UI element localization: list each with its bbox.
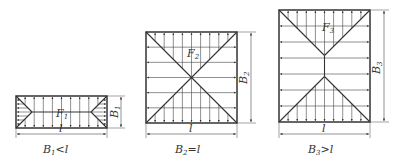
ridge-line — [279, 10, 325, 56]
ridge-line — [146, 32, 192, 78]
diagram-case-2: F2 B2 l B2=l — [146, 32, 256, 157]
width-dimension: l — [146, 122, 237, 138]
height-label: B3 — [370, 61, 384, 75]
caption: B2=l — [174, 143, 201, 157]
width-dimension: l — [16, 122, 107, 138]
height-label: B2 — [237, 71, 251, 85]
ridge-line — [192, 78, 238, 124]
panel-label: F1 — [55, 107, 68, 121]
load-distribution-diagram: F1 B1 l B1<l F2 B2 l — [0, 0, 398, 166]
width-label: l — [322, 122, 326, 135]
caption: B1<l — [42, 143, 69, 157]
panel-label: F2 — [186, 47, 200, 61]
width-label: l — [189, 122, 193, 135]
caption: B3>l — [307, 143, 334, 157]
height-label: B1 — [108, 105, 122, 119]
panel-label: F3 — [321, 21, 335, 35]
height-dimension: B2 — [237, 32, 256, 123]
width-label: l — [59, 122, 63, 135]
width-dimension: l — [279, 122, 370, 138]
height-dimension: B1 — [107, 96, 125, 128]
ridge-line — [325, 77, 371, 123]
diagram-case-3: F3 B3 l B3>l — [279, 10, 389, 157]
height-dimension: B3 — [370, 10, 389, 122]
ridge-line — [146, 78, 192, 124]
diagram-case-1: F1 B1 l B1<l — [16, 96, 125, 157]
ridge-line — [279, 77, 325, 123]
